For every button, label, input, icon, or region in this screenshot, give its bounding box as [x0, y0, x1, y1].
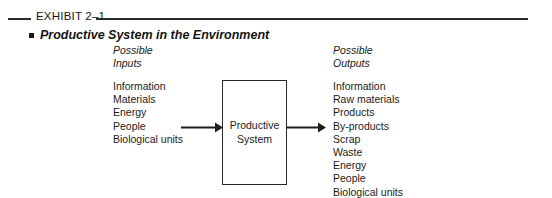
- arrow-right-icon: [181, 121, 223, 134]
- list-item: Raw materials: [333, 93, 403, 106]
- list-item: People: [113, 120, 183, 133]
- list-item: Information: [113, 80, 183, 93]
- arrow-right-icon: [286, 121, 326, 134]
- list-item: Energy: [333, 159, 403, 172]
- exhibit-title: Productive System in the Environment: [40, 28, 269, 42]
- possible-outputs-heading: Possible Outputs: [333, 44, 373, 69]
- list-item: Scrap: [333, 133, 403, 146]
- list-item: Biological units: [333, 186, 403, 198]
- header-rule-right: [96, 18, 528, 20]
- productive-system-label: Productive System: [230, 119, 280, 146]
- list-item: Energy: [113, 106, 183, 119]
- process-label-line1: Productive: [230, 119, 280, 131]
- list-item: People: [333, 172, 403, 185]
- square-bullet-icon: [29, 33, 34, 38]
- list-item: Biological units: [113, 133, 183, 146]
- list-item: Waste: [333, 146, 403, 159]
- inputs-heading-line1: Possible: [113, 44, 153, 56]
- header-rule-left: [8, 18, 31, 20]
- list-item: Products: [333, 106, 403, 119]
- outputs-list: Information Raw materials Products By-pr…: [333, 80, 403, 198]
- process-label-line2: System: [237, 133, 272, 145]
- exhibit-number-label: EXHIBIT 2–1: [36, 10, 105, 22]
- list-item: Materials: [113, 93, 183, 106]
- outputs-heading-line2: Outputs: [333, 57, 370, 69]
- list-item: Information: [333, 80, 403, 93]
- inputs-list: Information Materials Energy People Biol…: [113, 80, 183, 146]
- possible-inputs-heading: Possible Inputs: [113, 44, 153, 69]
- productive-system-box: Productive System: [222, 80, 287, 185]
- exhibit-title-row: Productive System in the Environment: [29, 28, 269, 42]
- list-item: By-products: [333, 120, 403, 133]
- exhibit-header: EXHIBIT 2–1: [0, 10, 552, 28]
- outputs-heading-line1: Possible: [333, 44, 373, 56]
- inputs-heading-line2: Inputs: [113, 57, 142, 69]
